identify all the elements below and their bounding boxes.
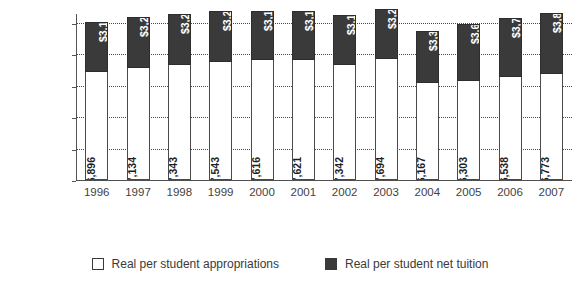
bar-group[interactable]: $3,766$6,538 xyxy=(499,18,522,180)
bar-segment-net-tuition[interactable]: $3,310 xyxy=(416,31,439,83)
bar-value-label: $3,147 xyxy=(303,11,315,31)
bar-value-label: $3,219 xyxy=(386,9,398,29)
bar-segment-appropriations[interactable]: $7,343 xyxy=(168,65,191,180)
bar-value-label: $7,621 xyxy=(292,157,304,180)
bar-segment-net-tuition[interactable]: $3,242 xyxy=(168,14,191,65)
bar-value-label: $6,303 xyxy=(457,157,469,180)
bar-segment-appropriations[interactable]: $6,773 xyxy=(540,74,563,180)
bar-value-label: $3,242 xyxy=(179,14,191,34)
bar-segment-net-tuition[interactable]: $3,845 xyxy=(540,13,563,73)
bar-value-label: $3,232 xyxy=(138,17,150,37)
bar-segment-net-tuition[interactable]: $3,195 xyxy=(85,22,108,72)
chart-legend: Real per student appropriationsReal per … xyxy=(0,252,580,276)
bar-value-label: $7,543 xyxy=(209,157,221,180)
bar-segment-appropriations[interactable]: $7,694 xyxy=(375,59,398,180)
bar-segment-net-tuition[interactable]: $3,248 xyxy=(209,11,232,62)
bar-segment-net-tuition[interactable]: $3,154 xyxy=(333,15,356,65)
bar-segment-appropriations[interactable]: $7,621 xyxy=(292,60,315,180)
bar-value-label: $3,766 xyxy=(510,18,522,38)
x-tick-label: 2007 xyxy=(529,186,573,198)
bar-segment-net-tuition[interactable]: $3,766 xyxy=(499,18,522,77)
gridline: $0 xyxy=(76,180,572,181)
bar-value-label: $7,134 xyxy=(127,157,139,180)
x-tick-label: 1999 xyxy=(199,186,243,198)
x-tick-label: 2001 xyxy=(281,186,325,198)
x-tick-label: 2004 xyxy=(405,186,449,198)
legend-item[interactable]: Real per student appropriations xyxy=(92,257,279,271)
bar-group[interactable]: $3,845$6,773 xyxy=(540,13,563,180)
bar-value-label: $6,538 xyxy=(499,157,511,180)
bar-segment-appropriations[interactable]: $6,538 xyxy=(499,77,522,180)
bar-segment-appropriations[interactable]: $7,616 xyxy=(251,60,274,180)
bar-segment-appropriations[interactable]: $7,342 xyxy=(333,65,356,180)
bar-value-label: $3,845 xyxy=(551,13,563,33)
bar-value-label: $7,342 xyxy=(333,157,345,180)
bar-segment-appropriations[interactable]: $6,896 xyxy=(85,72,108,180)
bar-value-label: $6,167 xyxy=(416,157,428,180)
bar-segment-appropriations[interactable]: $6,303 xyxy=(457,81,480,180)
x-tick-label: 2003 xyxy=(364,186,408,198)
legend-swatch-dark xyxy=(325,258,337,270)
x-tick-label: 2002 xyxy=(323,186,367,198)
x-tick-label: 2006 xyxy=(488,186,532,198)
x-tick-label: 2005 xyxy=(447,186,491,198)
bar-group[interactable]: $3,242$7,343 xyxy=(168,14,191,180)
bar-segment-net-tuition[interactable]: $3,219 xyxy=(375,9,398,60)
bar-value-label: $7,694 xyxy=(375,157,387,180)
bar-segment-net-tuition[interactable]: $3,617 xyxy=(457,24,480,81)
bar-value-label: $3,248 xyxy=(221,11,233,31)
bar-segment-net-tuition[interactable]: $3,147 xyxy=(292,11,315,60)
x-tick-label: 1998 xyxy=(157,186,201,198)
bar-group[interactable]: $3,154$7,342 xyxy=(333,15,356,180)
bar-group[interactable]: $3,248$7,543 xyxy=(209,11,232,180)
bar-group[interactable]: $3,617$6,303 xyxy=(457,24,480,180)
legend-label: Real per student appropriations xyxy=(112,257,279,271)
bar-value-label: $7,343 xyxy=(168,157,180,180)
bar-group[interactable]: $3,195$6,896 xyxy=(85,22,108,180)
x-tick-label: 1996 xyxy=(75,186,119,198)
bar-value-label: $3,195 xyxy=(97,22,109,42)
bar-series-container: $3,195$6,896$3,232$7,134$3,242$7,343$3,2… xyxy=(76,23,572,180)
plot-area: $0$2,000$4,000$6,000$8,000$10,000 $3,195… xyxy=(76,23,572,180)
bar-value-label: $3,154 xyxy=(345,15,357,35)
bar-group[interactable]: $3,219$7,694 xyxy=(375,9,398,180)
bar-group[interactable]: $3,147$7,621 xyxy=(292,11,315,180)
bar-value-label: $3,162 xyxy=(262,11,274,31)
legend-label: Real per student net tuition xyxy=(345,257,488,271)
bar-segment-net-tuition[interactable]: $3,232 xyxy=(127,17,150,68)
bar-group[interactable]: $3,162$7,616 xyxy=(251,11,274,180)
bar-segment-appropriations[interactable]: $6,167 xyxy=(416,83,439,180)
bar-group[interactable]: $3,232$7,134 xyxy=(127,17,150,180)
bar-segment-appropriations[interactable]: $7,134 xyxy=(127,68,150,180)
bar-segment-appropriations[interactable]: $7,543 xyxy=(209,62,232,180)
x-tick-label: 1997 xyxy=(116,186,160,198)
legend-item[interactable]: Real per student net tuition xyxy=(325,257,488,271)
bar-value-label: $3,617 xyxy=(469,24,481,44)
bar-group[interactable]: $3,310$6,167 xyxy=(416,31,439,180)
bar-value-label: $6,896 xyxy=(85,157,97,180)
chart-figure: $0$2,000$4,000$6,000$8,000$10,000 $3,195… xyxy=(0,0,580,287)
x-axis-labels: 1996199719981999200020012002200320042005… xyxy=(76,186,572,206)
y-tick-mark xyxy=(72,181,76,182)
legend-swatch-white xyxy=(92,258,104,270)
bar-value-label: $6,773 xyxy=(540,157,552,180)
x-tick-label: 2000 xyxy=(240,186,284,198)
bar-value-label: $7,616 xyxy=(251,157,263,180)
bar-segment-net-tuition[interactable]: $3,162 xyxy=(251,11,274,61)
bar-value-label: $3,310 xyxy=(427,31,439,51)
